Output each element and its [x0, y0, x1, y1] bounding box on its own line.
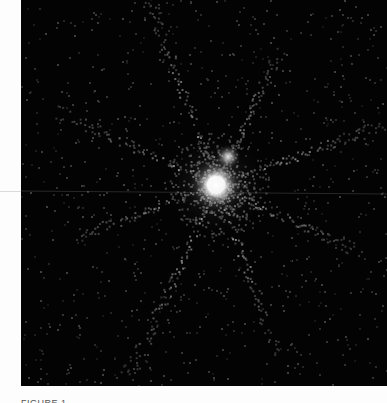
star-field-image — [21, 0, 387, 386]
figure-caption: FIGURE 1. — [21, 399, 70, 403]
figure-page: FIGURE 1. — [0, 0, 387, 403]
scan-line-artifact — [0, 191, 21, 192]
secondary-star — [215, 144, 241, 170]
star-field-canvas — [21, 0, 387, 386]
